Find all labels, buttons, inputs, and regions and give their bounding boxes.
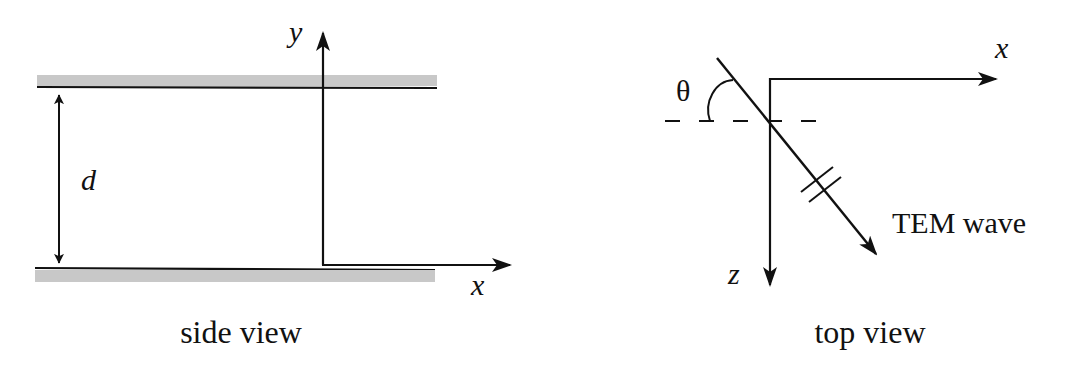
wave-label: TEM wave xyxy=(892,206,1026,239)
top-plate xyxy=(37,75,437,88)
separation-label: d xyxy=(81,163,97,196)
top-view-caption: top view xyxy=(814,314,925,350)
top-x-axis-label: x xyxy=(994,31,1009,64)
top-view: x z θ TEM wave top view xyxy=(665,31,1026,350)
top-x-axis-arrow xyxy=(770,79,996,122)
diagram-canvas: d y x side view x z θ TEM wave top xyxy=(0,0,1083,379)
angle-label: θ xyxy=(676,74,690,107)
side-view: d y x side view xyxy=(35,15,510,350)
z-axis-label: z xyxy=(727,257,740,290)
y-axis-label: y xyxy=(286,15,303,48)
x-axis-label: x xyxy=(470,268,485,301)
side-view-caption: side view xyxy=(180,314,302,350)
bottom-plate xyxy=(35,268,435,282)
angle-arc xyxy=(708,80,733,121)
wave-direction-arrow xyxy=(717,58,876,254)
